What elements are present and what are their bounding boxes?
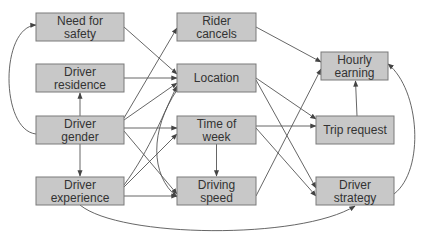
node-trip-request: Trip request [316, 116, 394, 144]
node-label: Rider [202, 14, 231, 28]
node-label: strategy [334, 191, 377, 205]
node-label: cancels [196, 27, 237, 41]
node-label: Driver [64, 178, 96, 192]
node-driver-residence: Driverresidence [36, 64, 124, 92]
node-driving-speed: Drivingspeed [177, 177, 256, 205]
node-driver-gender: Drivergender [36, 116, 124, 144]
causal-diagram: Need forsafetyDriverresidenceDrivergende… [0, 0, 430, 245]
nodes-layer: Need forsafetyDriverresidenceDrivergende… [36, 13, 394, 205]
edge-driver-gender-to-need-for-safety [9, 25, 36, 134]
edge-driver-gender-to-rider-cancels [124, 28, 177, 118]
node-label: residence [54, 78, 106, 92]
node-label: Location [194, 71, 239, 85]
node-label: Driver [64, 117, 96, 131]
node-rider-cancels: Ridercancels [177, 13, 256, 41]
node-location: Location [177, 64, 256, 92]
edge-need-for-safety-to-location [124, 27, 177, 74]
node-driver-experience: Driverexperience [36, 177, 124, 205]
node-driver-strategy: Driverstrategy [316, 177, 394, 205]
node-label: Driver [339, 178, 371, 192]
node-label: safety [64, 27, 96, 41]
edge-trip-request-to-hourly-earning [356, 81, 358, 116]
node-label: Time of [197, 117, 237, 131]
node-need-for-safety: Need forsafety [36, 13, 124, 41]
node-label: experience [51, 191, 110, 205]
edge-driver-experience-to-driver-strategy [80, 205, 355, 231]
node-label: Driver [64, 65, 96, 79]
edge-driver-gender-to-location [124, 83, 177, 120]
node-label: week [201, 130, 231, 144]
node-label: gender [61, 130, 98, 144]
edge-driver-experience-to-location [124, 86, 177, 185]
edge-driving-speed-to-hourly-earning [256, 69, 321, 196]
edge-driver-gender-to-driving-speed [124, 131, 177, 194]
edge-location-to-trip-request [256, 78, 316, 119]
node-label: Hourly [337, 53, 372, 67]
node-label: speed [200, 191, 233, 205]
node-label: Driving [198, 178, 235, 192]
node-label: Trip request [323, 123, 387, 137]
node-hourly-earning: Hourlyearning [321, 52, 388, 80]
node-label: Need for [57, 14, 103, 28]
node-label: earning [334, 66, 374, 80]
edge-rider-cancels-to-hourly-earning [256, 27, 321, 62]
node-time-of-week: Time ofweek [177, 116, 256, 144]
